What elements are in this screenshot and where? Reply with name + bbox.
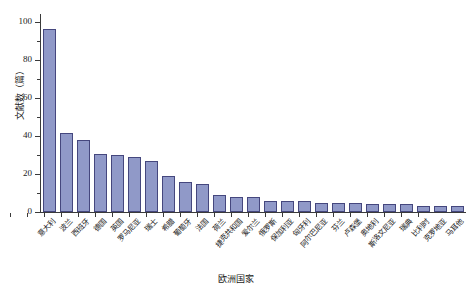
bar-slot	[41, 14, 58, 212]
bar-slot	[330, 14, 347, 212]
x-label-slot: 克罗地亚	[432, 217, 449, 269]
bar[interactable]	[196, 184, 208, 212]
bar[interactable]	[162, 176, 174, 212]
x-label-slot: 瑞士	[143, 217, 160, 269]
bar[interactable]	[179, 182, 191, 212]
y-axis-minor-tick	[37, 117, 40, 118]
bar[interactable]	[281, 201, 293, 212]
bar[interactable]	[94, 154, 106, 212]
bar-slot	[211, 14, 228, 212]
bar-slot	[398, 14, 415, 212]
x-axis-tick-label: 法国	[193, 217, 209, 233]
bar[interactable]	[400, 204, 412, 212]
x-label-slot: 意大利	[41, 217, 58, 269]
bar-slot	[381, 14, 398, 212]
x-axis-tick-label: 意大利	[35, 217, 56, 239]
y-axis-tick: 40	[35, 136, 40, 137]
bar-slot	[92, 14, 109, 212]
y-axis-tick: 20	[35, 174, 40, 175]
bar-slot	[313, 14, 330, 212]
x-label-slot: 捷克共和国	[228, 217, 245, 269]
y-axis-minor-tick	[37, 155, 40, 156]
bar-slot	[177, 14, 194, 212]
bar[interactable]	[451, 206, 463, 212]
bar[interactable]	[77, 140, 89, 212]
x-label-slot: 卢森堡	[347, 217, 364, 269]
y-axis-tick-label: 60	[23, 92, 32, 103]
bar-slot	[364, 14, 381, 212]
bar-series	[41, 14, 466, 212]
x-axis-tick	[10, 213, 11, 217]
bar[interactable]	[264, 201, 276, 212]
x-label-slot: 波兰	[58, 217, 75, 269]
bar-slot	[449, 14, 466, 212]
bar[interactable]	[128, 157, 140, 212]
x-label-slot: 希腊	[160, 217, 177, 269]
bar[interactable]	[349, 203, 361, 212]
bar-slot	[58, 14, 75, 212]
bar-slot	[296, 14, 313, 212]
bar-slot	[194, 14, 211, 212]
bar-slot	[245, 14, 262, 212]
x-label-slot: 阿尔巴尼亚	[313, 217, 330, 269]
plot-area: 020406080100	[40, 14, 466, 213]
bar[interactable]	[417, 206, 429, 212]
bar[interactable]	[315, 203, 327, 212]
bar[interactable]	[247, 197, 259, 212]
x-axis-tick-label: 瑞士	[142, 217, 158, 233]
x-axis-tick-labels: 意大利波兰西班牙德国英国罗马尼亚瑞士希腊葡萄牙法国荷兰捷克共和国爱尔兰俄罗斯保加…	[41, 217, 466, 269]
bar-slot	[126, 14, 143, 212]
x-label-slot: 芬兰	[330, 217, 347, 269]
x-axis-tick	[27, 213, 28, 217]
bar-slot	[415, 14, 432, 212]
bar-slot	[160, 14, 177, 212]
y-axis-minor-tick	[37, 41, 40, 42]
bar[interactable]	[434, 206, 446, 212]
y-axis-minor-tick	[37, 193, 40, 194]
x-label-slot: 马耳他	[449, 217, 466, 269]
y-axis-tick-label: 80	[23, 54, 32, 65]
x-label-slot: 爱尔兰	[245, 217, 262, 269]
bar[interactable]	[145, 161, 157, 212]
x-label-slot: 西班牙	[75, 217, 92, 269]
x-tick-slot	[18, 213, 35, 217]
bar-slot	[432, 14, 449, 212]
bar[interactable]	[43, 29, 55, 212]
bar[interactable]	[230, 197, 242, 212]
bar-slot	[279, 14, 296, 212]
x-axis-title: 欧洲国家	[0, 272, 472, 285]
x-label-slot: 罗马尼亚	[126, 217, 143, 269]
bar[interactable]	[366, 204, 378, 212]
y-axis-tick-label: 20	[23, 168, 32, 179]
bar-slot	[262, 14, 279, 212]
bar[interactable]	[332, 203, 344, 212]
bar[interactable]	[298, 201, 310, 212]
y-axis-tick: 60	[35, 98, 40, 99]
x-tick-slot	[1, 213, 18, 217]
bar[interactable]	[60, 133, 72, 212]
bar[interactable]	[213, 195, 225, 212]
y-axis-tick: 100	[35, 22, 40, 23]
bar[interactable]	[111, 155, 123, 212]
y-axis-tick-label: 40	[23, 130, 32, 141]
y-axis-tick-label: 100	[19, 16, 33, 27]
x-label-slot: 斯洛文尼亚	[381, 217, 398, 269]
bar-chart: 文献数（篇） 020406080100 意大利波兰西班牙德国英国罗马尼亚瑞士希腊…	[0, 0, 472, 291]
x-label-slot: 葡萄牙	[177, 217, 194, 269]
y-axis-minor-tick	[37, 79, 40, 80]
x-label-slot: 保加利亚	[279, 217, 296, 269]
y-axis-tick: 80	[35, 60, 40, 61]
bar-slot	[347, 14, 364, 212]
bar-slot	[75, 14, 92, 212]
x-label-slot: 德国	[92, 217, 109, 269]
bar[interactable]	[383, 204, 395, 212]
bar-slot	[143, 14, 160, 212]
x-label-slot: 法国	[194, 217, 211, 269]
x-label-slot: 瑞典	[398, 217, 415, 269]
bar-slot	[228, 14, 245, 212]
bar-slot	[109, 14, 126, 212]
x-axis-tick-label: 德国	[91, 217, 107, 233]
